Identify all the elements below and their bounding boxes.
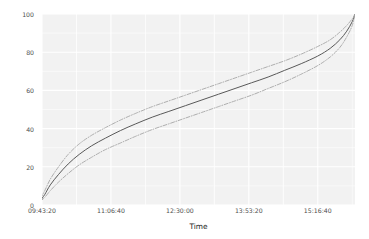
x-axis-tick-label: 11:06:40 <box>97 207 125 215</box>
series-line-confidence-bound <box>42 14 355 198</box>
y-axis-tick-label: 20 <box>6 163 34 170</box>
x-axis-tick-label: 09:43:20 <box>28 207 56 215</box>
plot-panel <box>42 14 355 205</box>
y-axis-title: % of Order <box>0 0 12 38</box>
series-line-confidence-bound <box>42 14 355 201</box>
x-axis-tick-label: 13:53:20 <box>235 207 263 215</box>
y-axis-tick-label: 80 <box>6 49 34 56</box>
y-axis-tick-label: 60 <box>6 87 34 94</box>
plot-canvas <box>42 14 355 205</box>
series-line-estimate <box>42 14 355 200</box>
x-axis-tick-label: 15:16:40 <box>304 207 332 215</box>
x-axis-tick-label: 12:30:00 <box>166 207 194 215</box>
y-axis-tick-label: 40 <box>6 125 34 132</box>
x-axis-title: Time <box>42 222 355 231</box>
chart-figure: 020406080100 09:43:2011:06:4012:30:0013:… <box>0 0 369 239</box>
